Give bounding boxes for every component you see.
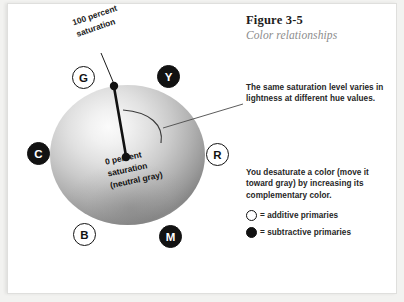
marker-red: R	[206, 143, 229, 166]
marker-green: G	[72, 66, 95, 89]
marker-magenta: M	[159, 225, 182, 248]
legend-label-additive: = additive primaries	[260, 211, 338, 220]
open-circle-icon	[246, 210, 257, 221]
legend-label-subtractive: = subtractive primaries	[260, 228, 351, 237]
note-lightness: The same saturation level varies in ligh…	[246, 82, 396, 105]
marker-cyan: C	[27, 142, 50, 165]
legend-item-additive: = additive primaries	[246, 207, 396, 224]
figure-subtitle: Color relationships	[246, 29, 337, 41]
legend: = additive primaries = subtractive prima…	[246, 207, 396, 241]
filled-circle-icon	[246, 227, 257, 238]
figure-title: Figure 3-5	[246, 13, 303, 28]
marker-blue: B	[73, 223, 96, 246]
marker-yellow: Y	[157, 65, 180, 88]
legend-item-subtractive: = subtractive primaries	[246, 224, 396, 241]
note-desaturate: You desaturate a color (move it toward g…	[246, 167, 398, 201]
figure-container: 100 percent saturation 0 percent saturat…	[0, 0, 404, 302]
